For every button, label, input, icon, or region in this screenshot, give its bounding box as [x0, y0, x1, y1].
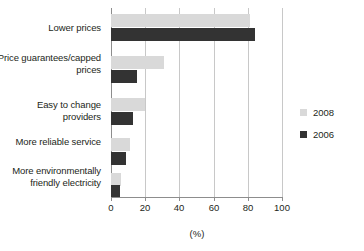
- plot-area: [111, 8, 282, 197]
- x-axis-tick: [214, 197, 215, 201]
- x-axis-tick-label: 100: [267, 202, 297, 213]
- legend-item-2006[interactable]: 2006: [300, 126, 334, 142]
- bar-2008: [111, 138, 130, 151]
- bar-2006: [111, 28, 255, 41]
- legend-swatch-icon: [300, 131, 307, 138]
- category-label: More environmentally friendly electricit…: [0, 165, 101, 188]
- x-axis-tick: [111, 197, 112, 201]
- x-axis-tick: [282, 197, 283, 201]
- x-axis-tick-label: 60: [199, 202, 229, 213]
- bar-2006: [111, 112, 133, 125]
- bar-2008: [111, 14, 250, 27]
- x-axis-tick-label: 0: [96, 202, 126, 213]
- gridline-100: [282, 8, 283, 197]
- bar-2006: [111, 152, 126, 165]
- category-label: Easy to change providers: [0, 99, 101, 122]
- x-axis-tick-label: 20: [130, 202, 160, 213]
- legend-label: 2008: [313, 107, 334, 118]
- legend-swatch-icon: [300, 109, 307, 116]
- x-axis-tick: [248, 197, 249, 201]
- bar-2006: [111, 70, 137, 83]
- x-axis-tick: [145, 197, 146, 201]
- legend-label: 2006: [313, 129, 334, 140]
- x-axis-tick: [179, 197, 180, 201]
- category-label: Price guarantees/capped prices: [0, 52, 101, 75]
- chart-legend: 2008 2006: [300, 104, 334, 148]
- bar-chart: Lower prices Price guarantees/capped pri…: [0, 0, 364, 251]
- x-axis-tick-label: 40: [164, 202, 194, 213]
- bar-2008: [111, 98, 145, 111]
- category-label: Lower prices: [0, 22, 101, 34]
- x-axis-title: (%): [111, 228, 283, 239]
- legend-item-2008[interactable]: 2008: [300, 104, 334, 120]
- x-axis-tick-label: 80: [233, 202, 263, 213]
- category-label: More reliable service: [0, 136, 101, 148]
- bar-2008: [111, 56, 164, 69]
- category-axis-labels: Lower prices Price guarantees/capped pri…: [0, 8, 106, 197]
- x-axis-line: [111, 197, 283, 198]
